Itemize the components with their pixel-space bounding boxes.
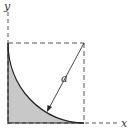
arrowhead-icon [47,105,52,112]
quarter-circle-figure: a y x [0,0,131,129]
radius-label: a [61,72,68,85]
y-axis-label: y [3,0,11,13]
shaded-region [8,43,84,123]
x-axis-label: x [121,117,128,129]
diagram: a y x [0,0,131,129]
